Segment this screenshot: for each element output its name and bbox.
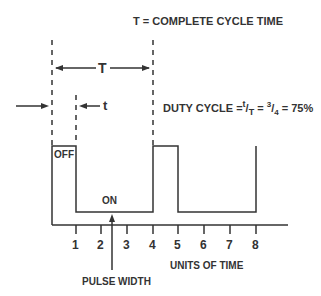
tick-3: 3 bbox=[123, 238, 130, 252]
tick-1: 1 bbox=[72, 238, 79, 252]
tick-7: 7 bbox=[226, 238, 233, 252]
pulse-width-label: PULSE WIDTH bbox=[82, 276, 151, 287]
x-axis-label: UNITS OF TIME bbox=[170, 260, 243, 271]
pulse-diagram bbox=[0, 0, 321, 296]
period-label: T bbox=[98, 60, 107, 76]
duty-cycle-formula: DUTY CYCLE =t/T = 3/4 = 75% bbox=[163, 99, 313, 117]
tick-5: 5 bbox=[174, 238, 181, 252]
pulse-label: t bbox=[103, 98, 107, 113]
tick-4: 4 bbox=[149, 238, 156, 252]
tick-8: 8 bbox=[252, 238, 259, 252]
title: T = COMPLETE CYCLE TIME bbox=[133, 15, 283, 27]
off-label: OFF bbox=[54, 149, 74, 160]
tick-2: 2 bbox=[97, 238, 104, 252]
waveform bbox=[52, 146, 256, 225]
on-label: ON bbox=[102, 195, 117, 206]
tick-6: 6 bbox=[200, 238, 207, 252]
